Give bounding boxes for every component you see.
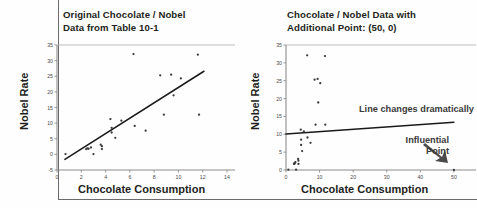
annotation-line-changes: Line changes dramatically (359, 104, 474, 115)
svg-text:5: 5 (50, 136, 53, 142)
svg-text:15: 15 (47, 105, 53, 111)
svg-text:35: 35 (47, 42, 53, 48)
scatter-plot-influential: 0510152025303501020304050 (239, 0, 477, 200)
svg-text:20: 20 (47, 89, 53, 95)
svg-text:30: 30 (47, 58, 53, 64)
svg-text:25: 25 (276, 78, 282, 84)
figure-page: Original Chocolate / Nobel Data from Tab… (0, 0, 477, 208)
chart-panel-original: Original Chocolate / Nobel Data from Tab… (0, 0, 238, 200)
svg-text:5: 5 (279, 149, 282, 155)
svg-text:-5: -5 (48, 167, 53, 173)
svg-text:20: 20 (350, 174, 356, 180)
svg-text:35: 35 (276, 42, 282, 48)
svg-text:15: 15 (276, 113, 282, 119)
svg-text:14: 14 (224, 174, 230, 180)
svg-text:20: 20 (276, 96, 282, 102)
svg-text:10: 10 (317, 174, 323, 180)
svg-text:10: 10 (47, 120, 53, 126)
svg-text:12: 12 (200, 174, 206, 180)
svg-text:40: 40 (417, 174, 423, 180)
chart-panel-influential: Chocolate / Nobel Data with Additional P… (239, 0, 477, 200)
svg-text:10: 10 (276, 131, 282, 137)
svg-text:0: 0 (56, 174, 59, 180)
x-axis-title-original: Chocolate Consumption (78, 183, 205, 195)
x-axis-title-influential: Chocolate Consumption (301, 183, 428, 195)
annotation-influential-point-line1: Influential (406, 135, 449, 145)
svg-text:4: 4 (104, 174, 107, 180)
svg-text:25: 25 (47, 73, 53, 79)
svg-text:0: 0 (50, 151, 53, 157)
scatter-plot-original: -50510152025303502468101214 (0, 0, 238, 200)
annotation-influential-point-line2: Point (379, 146, 449, 157)
annotation-influential-point: Influential Point (379, 135, 449, 157)
svg-text:6: 6 (128, 174, 131, 180)
svg-text:8: 8 (153, 174, 156, 180)
svg-text:0: 0 (285, 174, 288, 180)
svg-text:30: 30 (276, 60, 282, 66)
svg-text:50: 50 (451, 174, 457, 180)
svg-text:30: 30 (384, 174, 390, 180)
svg-text:2: 2 (80, 174, 83, 180)
svg-text:10: 10 (176, 174, 182, 180)
svg-text:0: 0 (279, 167, 282, 173)
